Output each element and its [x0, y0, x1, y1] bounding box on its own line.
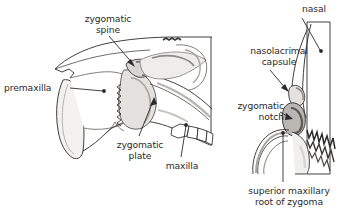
- label-zygomatic-notch: zygomatic notch: [216, 100, 284, 122]
- label-nasal: nasal: [296, 3, 332, 14]
- label-superior-maxillary-root-line2: root of zygoma: [240, 196, 338, 207]
- label-nasolacrimal-capsule-line1: nasolacrimal: [238, 45, 320, 56]
- label-zygomatic-spine-line2: spine: [73, 24, 143, 35]
- label-premaxilla: premaxilla: [4, 82, 68, 93]
- leader-dot-premaxilla: [102, 89, 106, 93]
- zygomatic-arch: [150, 75, 212, 109]
- label-superior-maxillary-root-line1: superior maxillary: [240, 185, 338, 196]
- dorsal-suture-marks: [163, 38, 181, 40]
- leader-zygomatic-spine: [109, 36, 133, 64]
- label-zygomatic-plate-line1: zygomatic: [108, 139, 172, 150]
- label-zygomatic-notch-line2: notch: [216, 111, 284, 122]
- arrowhead-nasolacrimal-capsule: [281, 84, 289, 92]
- anatomy-figure: zygomatic spine premaxilla zygomatic pla…: [0, 0, 339, 211]
- label-nasolacrimal-capsule: nasolacrimal capsule: [238, 45, 320, 67]
- label-nasal-line1: nasal: [296, 3, 332, 14]
- label-zygomatic-plate: zygomatic plate: [108, 139, 172, 161]
- leader-dot-maxilla: [184, 123, 188, 127]
- label-zygomatic-spine-line1: zygomatic: [73, 13, 143, 24]
- skull-illustration: [0, 0, 339, 211]
- leader-dot-superior-maxillary-root: [281, 131, 285, 135]
- palatal-shading: [158, 110, 188, 122]
- label-maxilla-line1: maxilla: [160, 160, 204, 171]
- label-zygomatic-notch-line1: zygomatic: [216, 100, 284, 111]
- label-zygomatic-spine: zygomatic spine: [73, 13, 143, 35]
- label-nasolacrimal-capsule-line2: capsule: [238, 56, 320, 67]
- zygoma-root-arch-third: [264, 141, 288, 174]
- premaxilla-tip: [55, 69, 74, 78]
- zygomatic-arch-lower: [150, 84, 209, 120]
- label-maxilla: maxilla: [160, 160, 204, 171]
- label-premaxilla-line1: premaxilla: [4, 82, 68, 93]
- label-superior-maxillary-root-of-zygoma: superior maxillary root of zygoma: [240, 185, 338, 207]
- maxillary-tooth-row: [171, 124, 213, 145]
